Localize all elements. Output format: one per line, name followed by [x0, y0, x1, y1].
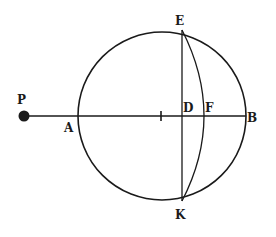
label-E: E [175, 14, 184, 28]
label-A: A [63, 121, 74, 135]
label-P: P [17, 93, 26, 107]
label-K: K [175, 208, 186, 222]
diagram-canvas: P A D F B E K [0, 0, 276, 237]
label-F: F [205, 101, 214, 115]
label-D: D [183, 101, 193, 115]
label-B: B [247, 111, 257, 125]
point-P-dot [19, 111, 30, 122]
